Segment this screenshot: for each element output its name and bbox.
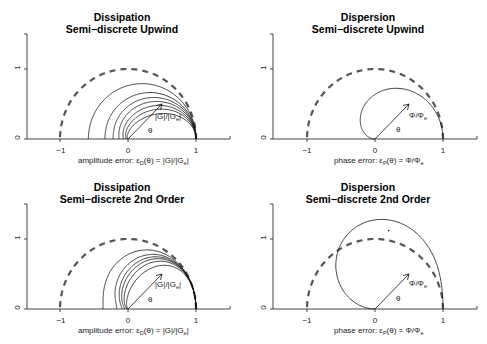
unit-circle-reference xyxy=(60,239,196,309)
x-axis-label: phase error: εP(θ) = Φ/Φe xyxy=(334,156,424,166)
x-tick: 0 xyxy=(126,316,130,325)
x-tick: 1 xyxy=(194,146,198,155)
x-axis-label: amplitude error: εD(θ) = |G|/|Ge| xyxy=(78,326,189,336)
y-tick: 0 xyxy=(13,135,22,139)
y-tick: 0 xyxy=(259,135,268,139)
theta-label: θ xyxy=(148,126,152,135)
y-tick: 1 xyxy=(259,235,268,239)
y-tick: 1 xyxy=(13,235,22,239)
x-axis-label: amplitude error: εD(θ) = |G|/|Ge| xyxy=(78,156,189,166)
x-tick: 1 xyxy=(194,316,198,325)
x-tick: 0 xyxy=(126,146,130,155)
panel-dissipation-2nd-order: Dissipation Semi−discrete 2nd Order −1 0… xyxy=(0,170,244,342)
y-tick: 0 xyxy=(13,305,22,309)
unit-circle-reference xyxy=(60,69,196,139)
y-tick: 0 xyxy=(259,305,268,309)
x-tick: 1 xyxy=(441,146,445,155)
plot-area xyxy=(246,0,487,172)
x-axis-label: phase error: εP(θ) = Φ/Φe xyxy=(334,326,424,336)
phase-curve xyxy=(360,88,443,139)
theta-label: θ xyxy=(396,125,400,134)
theta-label: θ xyxy=(148,295,152,304)
plot-area xyxy=(246,170,487,342)
plot-area xyxy=(0,170,244,342)
plot-area xyxy=(0,0,244,172)
x-tick: −1 xyxy=(56,316,65,325)
vector-label: Φ/Φe xyxy=(409,279,427,289)
y-tick: 1 xyxy=(13,65,22,69)
vector-label: |G|/|Ge| xyxy=(155,280,181,290)
panel-dispersion-2nd-order: Dispersion Semi−discrete 2nd Order −1 0 … xyxy=(246,170,487,342)
y-tick: 1 xyxy=(259,65,268,69)
vector-label: |G|/|Ge| xyxy=(155,112,181,122)
vector-arrow xyxy=(375,274,409,309)
vector-label: Φ/Φe xyxy=(409,111,427,121)
theta-label: θ xyxy=(396,294,400,303)
x-tick: 1 xyxy=(441,316,445,325)
vector-arrow xyxy=(375,104,409,139)
x-tick: 0 xyxy=(373,146,377,155)
unit-circle-reference xyxy=(307,239,443,309)
unit-circle-reference xyxy=(307,69,443,139)
panel-dispersion-upwind: Dispersion Semi−discrete Upwind −1 0 1 0… xyxy=(246,0,487,172)
panel-dissipation-upwind: Dissipation Semi−discrete Upwind −1 0 1 … xyxy=(0,0,244,172)
stray-point xyxy=(388,230,390,232)
x-tick: −1 xyxy=(56,146,65,155)
x-tick: −1 xyxy=(302,146,311,155)
x-tick: 0 xyxy=(373,316,377,325)
x-tick: −1 xyxy=(302,316,311,325)
